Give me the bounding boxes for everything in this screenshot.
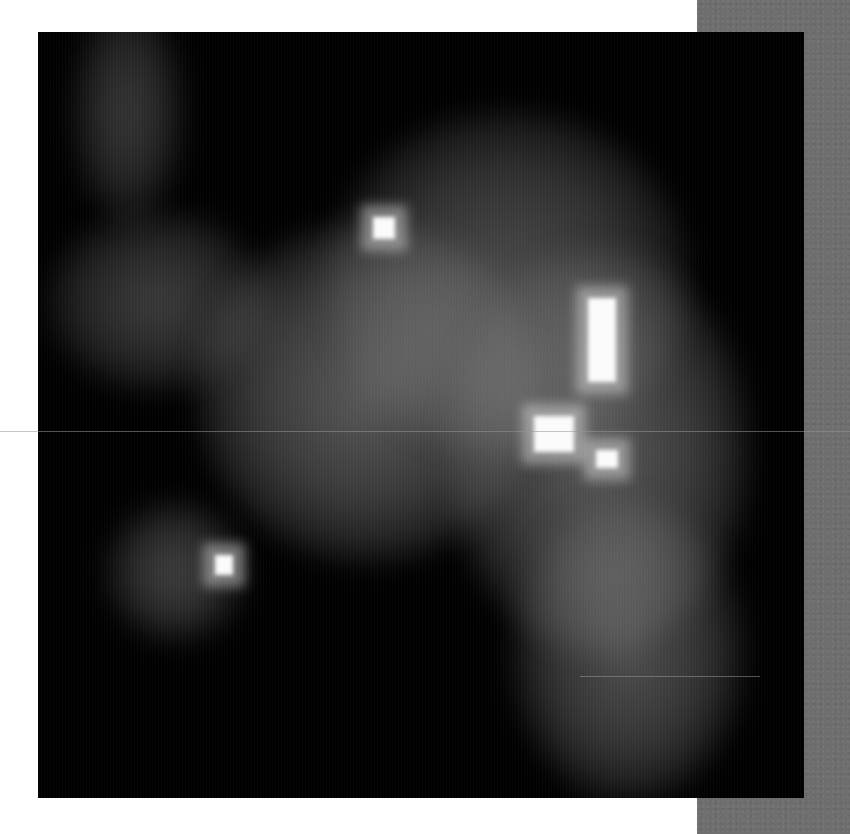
scan-line-1 [580, 676, 760, 677]
spot-vertical-bar [588, 298, 616, 382]
spot-right-center [534, 416, 574, 452]
scan-line-0 [0, 431, 850, 432]
spot-upper-center [373, 217, 395, 239]
lower-right-mass [513, 502, 743, 798]
fluorescence-image [38, 32, 804, 798]
spot-right-small [596, 450, 618, 468]
top-left-glow [73, 32, 183, 222]
spot-lower-left [215, 555, 233, 575]
